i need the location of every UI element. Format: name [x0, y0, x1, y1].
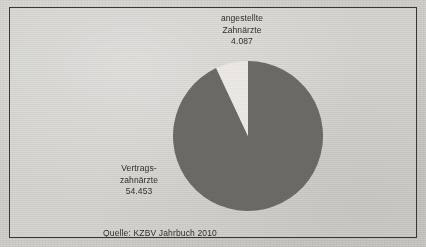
- pie-label-angestellte-line1: angestellte: [178, 13, 306, 25]
- pie-label-vertrags-line2: zahnärzte: [87, 175, 191, 187]
- pie-slice-vertragszahnaerzte: [173, 61, 323, 211]
- pie-label-angestellte-value: 4.087: [178, 36, 306, 48]
- pie-label-angestellte-zahnaerzte: angestellte Zahnärzte 4.087: [178, 13, 306, 48]
- chart-frame: angestellte Zahnärzte 4.087 Vertrags- za…: [9, 7, 417, 238]
- pie-label-angestellte-line2: Zahnärzte: [178, 25, 306, 37]
- source-note: Quelle: KZBV Jahrbuch 2010: [103, 228, 217, 238]
- pie-label-vertrags-value: 54.453: [87, 186, 191, 198]
- pie-label-vertragszahnaerzte: Vertrags- zahnärzte 54.453: [87, 163, 191, 198]
- pie-label-vertrags-line1: Vertrags-: [87, 163, 191, 175]
- chart-screenshot: der Zahnärzte in Deutschland nach Status…: [0, 0, 426, 247]
